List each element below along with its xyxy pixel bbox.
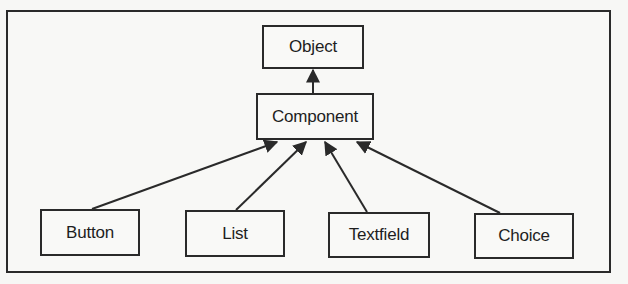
node-textfield: Textfield bbox=[328, 212, 430, 258]
node-button: Button bbox=[40, 209, 140, 256]
node-textfield-label: Textfield bbox=[349, 225, 410, 245]
node-component-label: Component bbox=[272, 107, 358, 127]
node-object-label: Object bbox=[289, 37, 337, 57]
node-list: List bbox=[185, 210, 285, 257]
node-choice-label: Choice bbox=[498, 226, 550, 246]
node-button-label: Button bbox=[66, 223, 114, 243]
node-object: Object bbox=[262, 25, 364, 69]
node-list-label: List bbox=[222, 224, 248, 244]
node-component: Component bbox=[256, 93, 374, 140]
node-choice: Choice bbox=[474, 213, 574, 259]
